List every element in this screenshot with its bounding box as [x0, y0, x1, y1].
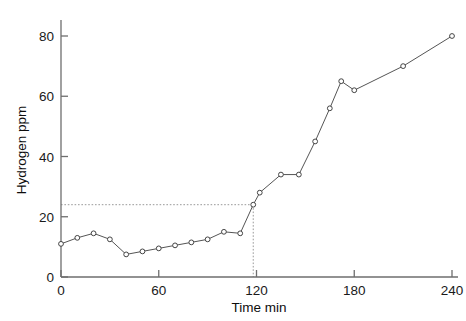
- data-point-marker: [313, 139, 318, 144]
- data-point-marker: [124, 252, 129, 257]
- data-point-marker: [296, 172, 301, 177]
- data-point-marker: [173, 243, 178, 248]
- chart-container: 020406080 060120180240 Hydrogen ppm Time…: [0, 0, 466, 321]
- x-axis-title: Time min: [231, 300, 286, 315]
- data-point-marker: [59, 241, 64, 246]
- data-point-marker: [251, 202, 256, 207]
- x-tick-label: 60: [151, 283, 166, 298]
- y-axis-title: Hydrogen ppm: [14, 106, 29, 195]
- data-point-marker: [107, 237, 112, 242]
- data-point-marker: [189, 240, 194, 245]
- y-tick-label: 40: [39, 150, 54, 165]
- x-tick-label: 0: [57, 283, 65, 298]
- data-point-marker: [75, 235, 80, 240]
- data-point-marker: [352, 88, 357, 93]
- data-point-marker: [450, 34, 455, 39]
- y-tick-label: 20: [39, 210, 54, 225]
- data-point-marker: [156, 246, 161, 251]
- data-point-marker: [257, 190, 262, 195]
- data-point-marker: [339, 79, 344, 84]
- data-point-marker: [222, 229, 227, 234]
- y-tick-label: 80: [39, 29, 54, 44]
- line-chart: 020406080 060120180240 Hydrogen ppm Time…: [0, 0, 466, 321]
- y-tick-label: 0: [46, 270, 54, 285]
- data-point-marker: [238, 231, 243, 236]
- y-tick-label: 60: [39, 89, 54, 104]
- data-point-marker: [279, 172, 284, 177]
- x-tick-label: 240: [441, 283, 464, 298]
- x-tick-label: 180: [343, 283, 366, 298]
- chart-background: [0, 0, 466, 321]
- data-point-marker: [140, 249, 145, 254]
- data-point-marker: [91, 231, 96, 236]
- data-point-marker: [401, 64, 406, 69]
- x-tick-label: 120: [245, 283, 268, 298]
- data-point-marker: [327, 106, 332, 111]
- data-point-marker: [205, 237, 210, 242]
